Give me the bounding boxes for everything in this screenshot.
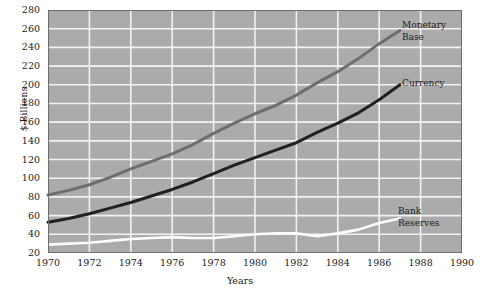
plot-canvas — [0, 0, 480, 293]
y-tick-label: 80 — [6, 192, 40, 202]
series-label-monetary-base: MonetaryBase — [402, 20, 446, 43]
series-label-line: Currency — [402, 78, 445, 90]
series-label-line: Base — [402, 32, 446, 44]
x-tick-label: 1990 — [439, 257, 480, 268]
y-tick-label: 40 — [6, 229, 40, 239]
y-tick-label: 60 — [6, 211, 40, 221]
y-tick-label: 280 — [6, 5, 40, 15]
x-tick-label: 1988 — [398, 257, 444, 268]
x-axis-title: Years — [0, 275, 480, 286]
y-tick-label: 220 — [6, 61, 40, 71]
y-tick-label: 240 — [6, 42, 40, 52]
x-tick-label: 1980 — [232, 257, 278, 268]
y-tick-label: 200 — [6, 80, 40, 90]
y-tick-label: 180 — [6, 98, 40, 108]
series-label-bank-reserves: BankReserves — [398, 206, 439, 229]
x-tick-label: 1970 — [25, 257, 71, 268]
series-label-line: Reserves — [398, 218, 439, 230]
series-label-line: Bank — [398, 206, 439, 218]
series-label-currency: Currency — [402, 78, 445, 90]
y-tick-label: 120 — [6, 155, 40, 165]
x-tick-label: 1976 — [149, 257, 195, 268]
line-chart: $ Billions 20406080100120140160180200220… — [0, 0, 480, 293]
y-tick-label: 100 — [6, 173, 40, 183]
x-tick-label: 1982 — [273, 257, 319, 268]
x-tick-label: 1972 — [66, 257, 112, 268]
x-tick-label: 1978 — [191, 257, 237, 268]
x-tick-label: 1984 — [315, 257, 361, 268]
series-label-line: Monetary — [402, 20, 446, 32]
y-tick-label: 260 — [6, 24, 40, 34]
y-tick-label: 160 — [6, 117, 40, 127]
x-tick-label: 1986 — [356, 257, 402, 268]
y-tick-label: 140 — [6, 136, 40, 146]
x-tick-label: 1974 — [108, 257, 154, 268]
